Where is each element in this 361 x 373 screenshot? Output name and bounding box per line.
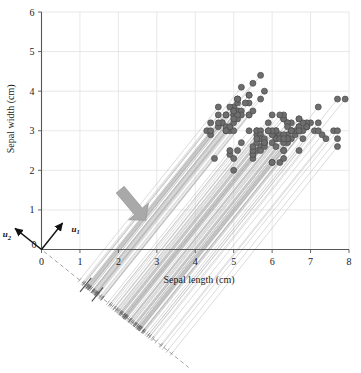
data-point [315,128,321,134]
x-tick-label: 8 [347,256,352,267]
data-point [334,128,340,134]
data-point [281,155,287,161]
data-point [258,96,264,102]
data-point [258,72,264,78]
y-tick-label: 6 [30,7,35,18]
data-point [334,96,340,102]
data-point [215,120,221,126]
data-point [238,140,244,146]
pca-projection-figure: 012345678 123456 u1u2 Sepal length (cm) … [0,0,361,373]
data-point [269,112,275,118]
data-point [235,148,241,154]
data-point [250,108,256,114]
data-point [323,136,329,142]
data-point [277,112,283,118]
data-point [269,159,275,165]
data-point [246,128,252,134]
data-point [231,108,237,114]
data-point [231,155,237,161]
data-point [281,148,287,154]
data-point [273,144,279,150]
data-point [315,120,321,126]
data-point [227,148,233,154]
data-point [334,144,340,150]
data-point [296,116,302,122]
data-point [261,140,267,146]
data-point [223,128,229,134]
x-tick-label: 7 [308,256,313,267]
data-point [334,136,340,142]
data-point [246,92,252,98]
y-tick-label: 2 [30,165,35,176]
data-point [258,148,264,154]
data-point [296,128,302,134]
data-point [235,96,241,102]
origin-label: 0 [32,239,37,250]
x-axis-label: Sepal length (cm) [164,274,235,286]
x-tick-label: 0 [39,256,44,267]
y-tick-label: 3 [30,125,35,136]
figure-canvas: 012345678 123456 u1u2 Sepal length (cm) … [0,0,361,373]
data-point [211,155,217,161]
data-point [265,120,271,126]
data-point [238,84,244,90]
data-point [208,128,214,134]
data-point [223,112,229,118]
x-tick-label: 2 [116,256,121,267]
data-point [242,100,248,106]
y-tick-label: 5 [30,46,35,57]
data-point [342,96,348,102]
data-point [231,116,237,122]
data-point [254,136,260,142]
x-tick-label: 3 [154,256,159,267]
data-point [215,104,221,110]
x-tick-label: 6 [270,256,275,267]
data-point [231,167,237,173]
y-tick-label: 1 [30,204,35,215]
data-point [296,148,302,154]
data-point [315,104,321,110]
y-axis-label: Sepal width (cm) [5,84,17,153]
data-point [265,128,271,134]
data-point [288,128,294,134]
data-point [208,120,214,126]
data-point [261,88,267,94]
x-tick-label: 4 [193,256,198,267]
y-tick-label: 4 [30,86,35,97]
x-tick-label: 5 [231,256,236,267]
data-point [281,136,287,142]
data-point [300,136,306,142]
data-point [215,112,221,118]
data-point [250,80,256,86]
x-tick-label: 1 [77,256,82,267]
